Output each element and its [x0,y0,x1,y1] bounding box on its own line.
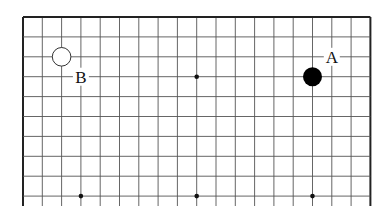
label-a: A [326,48,339,67]
white-stone-icon [52,48,71,67]
label-b: B [75,68,86,87]
star-point-icon [194,194,199,199]
star-point-icon [79,194,84,199]
star-point-icon [310,194,315,199]
point-labels: B A [73,48,340,87]
star-point-icon [194,74,199,79]
black-stone-icon [303,67,322,86]
stones [52,48,322,87]
go-board: B A [0,0,392,219]
board-grid [23,17,370,206]
